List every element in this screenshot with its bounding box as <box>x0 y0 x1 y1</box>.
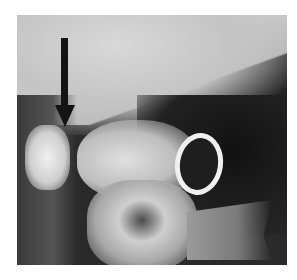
arrow-down-icon <box>55 105 75 127</box>
axis-vertebra-body <box>87 180 197 265</box>
dens-region <box>25 125 70 190</box>
arrow-annotation-shaft <box>61 38 68 110</box>
radiograph-image <box>17 15 287 265</box>
